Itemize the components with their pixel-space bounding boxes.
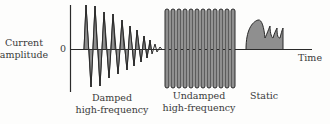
damped-label-line2: high-frequency xyxy=(76,104,150,115)
x-axis-label: Time xyxy=(298,52,322,63)
damped-label-line1: Damped xyxy=(92,92,132,103)
undamped-label-line2: high-frequency xyxy=(163,102,237,113)
static-wave xyxy=(246,20,283,50)
zero-tick-label: 0 xyxy=(60,43,66,54)
waveform-diagram: Current amplitude 0 Time Damped high-fre… xyxy=(0,0,330,124)
y-axis-label-line2: amplitude xyxy=(0,49,49,60)
static-label: Static xyxy=(250,90,278,101)
y-axis-label-line1: Current xyxy=(5,37,43,48)
undamped-wave xyxy=(165,9,235,88)
damped-wave xyxy=(84,5,162,87)
waveform-svg: Current amplitude 0 Time Damped high-fre… xyxy=(0,0,330,124)
undamped-label-line1: Undamped xyxy=(173,90,226,101)
